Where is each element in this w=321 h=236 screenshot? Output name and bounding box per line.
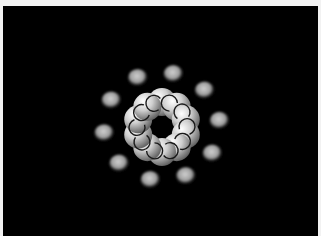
outer-blob xyxy=(128,69,148,87)
outer-blob xyxy=(203,145,223,163)
outer-blob xyxy=(164,65,184,83)
outer-blobs xyxy=(94,65,229,189)
render-canvas: 3D render of a ring of glowing spheres w… xyxy=(3,6,318,236)
outer-blob xyxy=(195,81,215,99)
ring-visualization xyxy=(3,6,318,236)
outer-blob xyxy=(176,167,196,185)
outer-blob xyxy=(109,155,129,173)
outer-blob xyxy=(140,171,160,189)
outer-blob xyxy=(101,91,121,109)
outer-blob xyxy=(210,112,230,130)
outer-blob xyxy=(94,124,114,142)
